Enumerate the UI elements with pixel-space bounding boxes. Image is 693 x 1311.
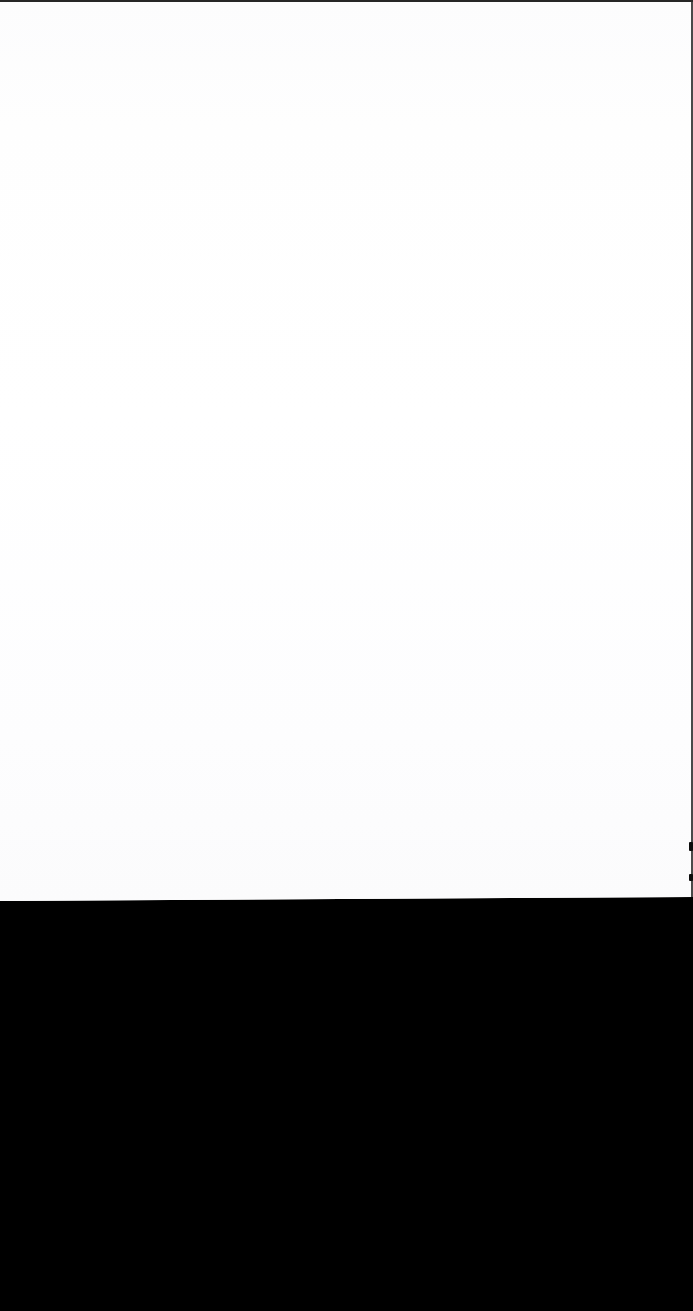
edge-tick-lower	[689, 874, 693, 881]
screenshot-root	[0, 0, 693, 1311]
top-edge-rule	[0, 0, 693, 2]
page-content-area	[0, 2, 691, 901]
white-page-sheet	[0, 0, 693, 901]
edge-tick-upper	[689, 842, 693, 851]
